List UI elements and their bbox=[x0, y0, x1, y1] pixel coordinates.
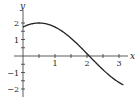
data-curve bbox=[23, 23, 123, 85]
tick-labels: 12321−1−2 bbox=[7, 19, 121, 94]
y-tick-label: −2 bbox=[7, 85, 19, 94]
chart: 12321−1−2 x y bbox=[0, 0, 138, 104]
x-tick-label: 2 bbox=[84, 59, 89, 68]
y-tick-label: 1 bbox=[14, 36, 19, 45]
y-axis-label: y bbox=[19, 1, 26, 11]
x-tick-label: 1 bbox=[52, 59, 57, 68]
chart-svg: 12321−1−2 x y bbox=[0, 0, 138, 104]
x-tick-label: 3 bbox=[116, 59, 121, 68]
y-tick-label: −1 bbox=[7, 69, 19, 78]
x-axis-label: x bbox=[130, 51, 135, 61]
y-tick-label: 2 bbox=[14, 19, 19, 28]
